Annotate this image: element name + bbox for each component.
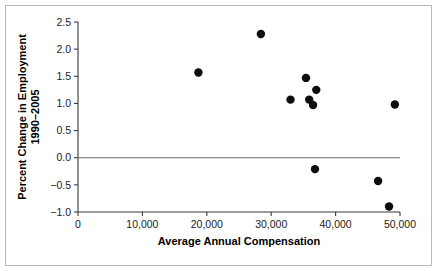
data-point xyxy=(374,177,382,185)
x-tick-label: 30,000 xyxy=(255,218,287,230)
y-tick-label: −0.5 xyxy=(50,179,71,191)
y-tick-label: 0.0 xyxy=(56,151,71,163)
x-tick-label: 50,000 xyxy=(384,218,416,230)
scatter-plot-canvas: −1.0−0.50.00.51.01.52.02.5010,00020,0003… xyxy=(0,0,437,271)
data-point xyxy=(391,100,399,108)
y-tick-label: −1.0 xyxy=(50,206,71,218)
data-point xyxy=(312,86,320,94)
y-tick-label: 1.0 xyxy=(56,97,71,109)
data-point xyxy=(257,30,265,38)
y-tick-label: 2.0 xyxy=(56,43,71,55)
y-axis-title: Percent Change in Employment1990–2005 xyxy=(16,34,41,200)
data-point xyxy=(311,165,319,173)
data-point xyxy=(302,74,310,82)
scatter-plot-figure: −1.0−0.50.00.51.01.52.02.5010,00020,0003… xyxy=(0,0,437,271)
y-tick-label: 1.5 xyxy=(56,70,71,82)
data-point xyxy=(385,202,393,210)
data-point xyxy=(194,68,202,76)
y-axis-title-line2: 1990–2005 xyxy=(29,89,41,144)
x-tick-label: 20,000 xyxy=(191,218,223,230)
y-tick-label: 0.5 xyxy=(56,124,71,136)
data-point xyxy=(286,95,294,103)
x-tick-label: 40,000 xyxy=(320,218,352,230)
x-axis-title: Average Annual Compensation xyxy=(158,235,321,247)
y-tick-label: 2.5 xyxy=(56,16,71,28)
y-axis-title-line1: Percent Change in Employment xyxy=(16,34,28,200)
data-point xyxy=(309,101,317,109)
x-tick-label: 0 xyxy=(75,218,81,230)
x-tick-label: 10,000 xyxy=(126,218,158,230)
